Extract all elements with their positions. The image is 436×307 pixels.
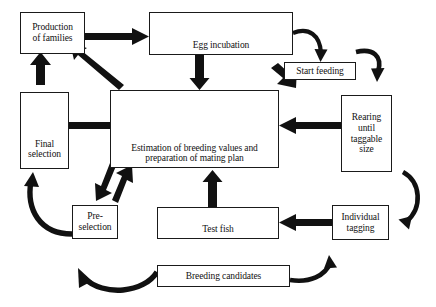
edge-production-to-egg — [85, 28, 149, 45]
node-test-fish[interactable]: Test fish — [157, 207, 279, 239]
edge-startfeeding-to-rearing — [356, 51, 385, 82]
node-rearing-until-taggable-size[interactable]: Rearing until taggable size — [341, 95, 392, 172]
node-pre-selection-label: Pre- selection — [73, 211, 117, 232]
edge-candidates-to-tagging — [290, 255, 337, 281]
edge-tagging-to-testfish — [279, 214, 332, 231]
node-test-fish-label: Test fish — [158, 224, 278, 238]
node-breeding-candidates[interactable]: Breeding candidates — [157, 265, 290, 287]
edge-rearing-to-tagging — [399, 172, 418, 230]
node-estimation-of-breeding-values[interactable]: Estimation of breeding values and prepar… — [110, 90, 279, 168]
edge-finalselection-to-production — [30, 52, 51, 85]
node-final-selection[interactable]: Final selection — [20, 92, 69, 169]
node-production-of-families-label: Production of families — [21, 22, 84, 43]
node-start-feeding-label: Start feeding — [285, 66, 355, 77]
node-egg-incubation-label: Egg incubation — [150, 40, 292, 54]
node-rearing-until-taggable-size-label: Rearing until taggable size — [342, 112, 391, 155]
edge-testfish-to-estimation — [203, 170, 223, 207]
edge-candidates-to-preselection — [78, 268, 157, 290]
edge-egg-to-startfeeding — [293, 31, 328, 62]
edge-estimation-to-preselection — [95, 163, 116, 201]
node-individual-tagging[interactable]: Individual tagging — [332, 205, 389, 240]
edge-egg-to-estimation — [190, 55, 210, 90]
node-pre-selection[interactable]: Pre- selection — [72, 205, 118, 239]
flowchart-canvas: Production of families Egg incubation St… — [0, 0, 436, 307]
edge-preselection-to-finalselection — [24, 172, 72, 234]
edge-rearing-to-estimation — [279, 117, 341, 134]
node-estimation-of-breeding-values-label: Estimation of breeding values and prepar… — [111, 143, 278, 167]
node-egg-incubation[interactable]: Egg incubation — [149, 12, 293, 55]
node-production-of-families[interactable]: Production of families — [20, 12, 85, 54]
node-start-feeding[interactable]: Start feeding — [284, 62, 356, 80]
edge-preselection-to-estimation — [112, 165, 133, 203]
node-individual-tagging-label: Individual tagging — [333, 212, 388, 233]
node-final-selection-label: Final selection — [21, 139, 68, 168]
node-breeding-candidates-label: Breeding candidates — [158, 271, 289, 282]
